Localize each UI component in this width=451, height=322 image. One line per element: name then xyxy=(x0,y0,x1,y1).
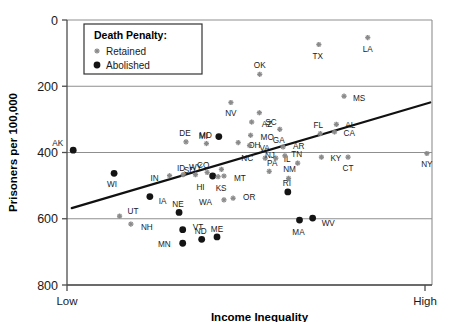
marker-WV xyxy=(309,215,316,222)
data-point-ND[interactable]: ND xyxy=(195,227,207,242)
marker-VA xyxy=(247,143,252,148)
marker-HI xyxy=(209,173,216,180)
point-label-NE: NE xyxy=(172,200,184,209)
data-point-DE[interactable]: DE xyxy=(179,129,191,145)
point-label-AK: AK xyxy=(52,139,63,148)
data-point-NC[interactable]: NC xyxy=(241,154,267,163)
data-point-NV[interactable]: NV xyxy=(225,100,237,119)
marker-SC xyxy=(257,110,262,115)
point-label-ND: ND xyxy=(195,227,207,236)
data-point-WV[interactable]: WV xyxy=(309,215,335,228)
marker-CO xyxy=(219,167,224,172)
marker-MN xyxy=(179,240,186,247)
data-point-NY[interactable]: NY xyxy=(421,151,433,170)
point-label-DE: DE xyxy=(179,129,191,138)
marker-AR xyxy=(280,144,285,149)
data-point-OR[interactable]: OR xyxy=(230,193,255,202)
data-point-FL[interactable]: FL xyxy=(314,121,324,137)
data-point-NE[interactable]: NE xyxy=(172,200,184,215)
data-point-IA[interactable]: IA xyxy=(146,193,167,205)
point-label-AL: AL xyxy=(345,121,355,130)
point-label-WV: WV xyxy=(322,219,336,228)
point-label-OK: OK xyxy=(254,61,266,70)
marker-WA xyxy=(221,197,226,202)
data-point-HI[interactable]: HI xyxy=(196,173,216,192)
marker-FL xyxy=(318,131,323,136)
point-label-MN: MN xyxy=(158,240,171,249)
marker-CA xyxy=(332,129,337,134)
point-label-NH: NH xyxy=(141,223,153,232)
point-label-FL: FL xyxy=(314,121,324,130)
legend-label-retained: Retained xyxy=(106,46,146,57)
marker-MT xyxy=(221,173,226,178)
point-label-WI: WI xyxy=(107,180,117,189)
point-label-UT: UT xyxy=(128,207,139,216)
point-label-SD: SD xyxy=(184,166,195,175)
marker-VT xyxy=(179,226,186,233)
point-label-ME: ME xyxy=(211,225,224,234)
marker-OR xyxy=(230,196,235,201)
data-point-TX[interactable]: TX xyxy=(313,42,324,61)
marker-NE xyxy=(176,209,183,216)
data-point-TN[interactable]: TN xyxy=(291,150,302,166)
data-point-WA[interactable]: WA xyxy=(199,197,226,207)
point-label-KS: KS xyxy=(216,184,227,193)
marker-LA xyxy=(365,35,370,40)
y-tick-label-200: 600 xyxy=(37,212,58,226)
point-label-TN: TN xyxy=(291,150,302,159)
point-label-OR: OR xyxy=(243,193,255,202)
point-label-SC: SC xyxy=(265,118,276,127)
point-label-GA: GA xyxy=(273,136,285,145)
data-point-MN[interactable]: MN xyxy=(158,240,186,249)
data-point-LA[interactable]: LA xyxy=(363,35,374,54)
data-point-MS[interactable]: MS xyxy=(341,94,365,104)
point-label-NM: NM xyxy=(283,165,296,174)
point-label-IA: IA xyxy=(159,197,167,206)
data-point-ME[interactable]: ME xyxy=(211,225,224,240)
data-point-MA[interactable]: MA xyxy=(292,217,305,237)
marker-OK xyxy=(257,72,262,77)
point-label-MO: MO xyxy=(261,133,274,142)
marker-PA xyxy=(267,169,272,174)
point-label-RI: RI xyxy=(283,179,291,188)
point-label-PA: PA xyxy=(267,159,278,168)
x-tick-low-label: Low xyxy=(56,295,78,307)
point-label-NY: NY xyxy=(421,160,433,169)
data-point-SC[interactable]: SC xyxy=(257,110,277,127)
marker-MA xyxy=(296,217,303,224)
data-point-CT[interactable]: CT xyxy=(343,155,354,174)
data-point-WI[interactable]: WI xyxy=(107,170,117,189)
marker-NJ xyxy=(282,153,287,158)
marker-NH xyxy=(128,221,133,226)
marker-MD xyxy=(204,141,209,146)
marker-MS xyxy=(341,94,346,99)
marker-ND xyxy=(198,236,205,243)
marker-ME xyxy=(214,234,221,241)
data-point-UT[interactable]: UT xyxy=(117,207,139,219)
marker-AZ xyxy=(249,119,254,124)
marker-OH xyxy=(236,140,241,145)
marker-KY xyxy=(319,155,324,160)
marker-NY xyxy=(424,151,429,156)
marker-WI xyxy=(111,170,118,177)
y-tick-label-0: 800 xyxy=(37,279,58,293)
point-label-HI: HI xyxy=(196,183,204,192)
data-point-PA[interactable]: PA xyxy=(267,159,278,174)
point-label-NC: NC xyxy=(241,154,253,163)
legend-title: Death Penalty: xyxy=(94,29,167,41)
marker-IA xyxy=(146,193,153,200)
marker-CT xyxy=(345,155,350,160)
data-point-MT[interactable]: MT xyxy=(221,173,245,183)
marker-SD xyxy=(205,170,210,175)
data-point-OK[interactable]: OK xyxy=(254,61,266,77)
point-label-MA: MA xyxy=(292,228,305,237)
data-point-NH[interactable]: NH xyxy=(128,221,153,232)
point-label-NJ: NJ xyxy=(265,151,275,160)
marker-TN xyxy=(295,161,300,166)
data-point-KY[interactable]: KY xyxy=(319,154,342,163)
marker-GA xyxy=(277,127,282,132)
point-label-MT: MT xyxy=(234,174,246,183)
data-point-GA[interactable]: GA xyxy=(273,127,285,146)
point-label-NV: NV xyxy=(225,109,237,118)
data-point-RI[interactable]: RI xyxy=(283,179,291,195)
